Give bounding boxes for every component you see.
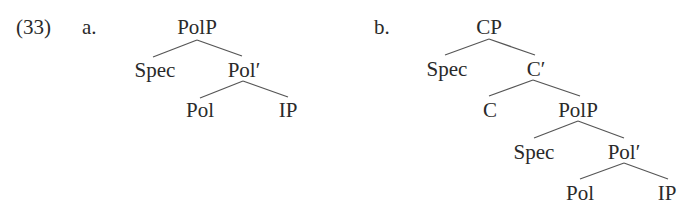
branch-b-polbar-head bbox=[580, 163, 624, 179]
node-a-pol: Pol bbox=[186, 99, 214, 121]
node-a-pol-bar: Pol′ bbox=[228, 59, 261, 81]
subexample-a-label: a. bbox=[82, 16, 97, 38]
branch-a-root-bar bbox=[197, 40, 242, 56]
branch-b-polp-bar bbox=[578, 121, 624, 138]
node-b-pol-bar: Pol′ bbox=[608, 141, 641, 163]
node-b-c-bar: C′ bbox=[527, 58, 546, 80]
node-a-polp: PolP bbox=[177, 16, 217, 38]
node-b-polp-spec: Spec bbox=[514, 141, 555, 163]
node-b-c: C bbox=[483, 99, 497, 121]
branch-b-bar-head bbox=[489, 80, 533, 96]
node-b-spec: Spec bbox=[427, 58, 468, 80]
branch-b-root-bar bbox=[489, 39, 535, 55]
branch-b-bar-comp bbox=[533, 80, 580, 96]
syntax-tree-figure: (33) a. b. PolP Spec Pol′ Pol IP CP Spec… bbox=[0, 0, 696, 208]
branch-b-polbar-comp bbox=[624, 163, 668, 179]
branch-a-bar-head bbox=[200, 81, 243, 98]
node-b-ip: IP bbox=[658, 182, 677, 204]
node-b-polp: PolP bbox=[558, 99, 598, 121]
branch-a-bar-comp bbox=[243, 81, 288, 97]
subexample-b-label: b. bbox=[374, 16, 390, 38]
branch-b-root-spec bbox=[445, 39, 489, 55]
branch-a-root-spec bbox=[153, 40, 197, 57]
node-a-spec: Spec bbox=[135, 59, 176, 81]
example-number: (33) bbox=[16, 16, 51, 38]
node-a-ip: IP bbox=[279, 99, 298, 121]
branch-b-polp-spec bbox=[534, 121, 578, 138]
node-b-cp: CP bbox=[476, 16, 502, 38]
node-b-pol: Pol bbox=[566, 182, 594, 204]
